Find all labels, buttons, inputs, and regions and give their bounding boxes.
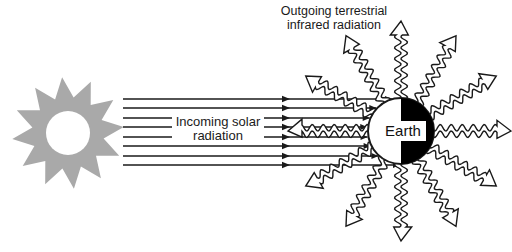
outgoing-label-line1: Outgoing terrestrial	[270, 4, 398, 18]
incoming-solar-radiation-label: Incoming solar radiation	[172, 115, 264, 143]
incoming-ray	[123, 105, 376, 111]
outgoing-label-line2: infrared radiation	[270, 18, 398, 32]
incoming-ray	[123, 162, 400, 168]
outgoing-wavy-arrow	[394, 162, 412, 241]
incoming-ray	[123, 143, 371, 149]
incoming-label-line1: Incoming solar	[172, 115, 264, 129]
outgoing-wavy-arrow	[288, 119, 370, 137]
earth-label: Earth	[380, 121, 426, 141]
outgoing-wavy-arrow	[390, 21, 408, 100]
sun-icon	[12, 77, 123, 188]
outgoing-wavy-arrow	[432, 120, 511, 138]
radiation-diagram: Incoming solar radiation Outgoing terres…	[0, 0, 512, 252]
incoming-label-line2: radiation	[172, 129, 264, 143]
outgoing-terrestrial-radiation-label: Outgoing terrestrial infrared radiation	[270, 4, 398, 32]
